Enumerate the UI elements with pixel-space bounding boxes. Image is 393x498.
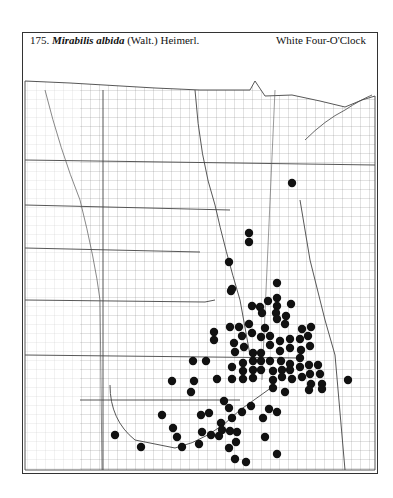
occurrence-dot <box>239 359 247 367</box>
occurrence-dot <box>269 384 277 392</box>
occurrence-dot <box>230 339 238 347</box>
occurrence-dot <box>296 335 304 343</box>
occurrence-dot <box>277 357 285 365</box>
occurrence-dot <box>231 455 239 463</box>
occurrence-dot <box>249 357 257 365</box>
occurrence-dot <box>238 332 246 340</box>
occurrence-dot <box>269 367 277 375</box>
occurrence-dot <box>173 433 181 441</box>
occurrence-dot <box>210 336 218 344</box>
occurrence-dot <box>210 328 218 336</box>
occurrence-dot <box>305 361 313 369</box>
occurrence-dot <box>278 373 286 381</box>
occurrence-dot <box>231 348 239 356</box>
occurrence-dot <box>264 297 272 305</box>
occurrence-dot <box>190 377 198 385</box>
occurrence-dot <box>297 346 305 354</box>
occurrence-dot <box>137 443 145 451</box>
occurrence-dot <box>225 444 233 452</box>
occurrence-dot <box>111 431 119 439</box>
occurrence-dot <box>249 349 257 357</box>
occurrence-dot <box>273 408 281 416</box>
occurrence-dot <box>228 375 236 383</box>
occurrence-dot <box>286 366 294 374</box>
occurrence-dot <box>248 302 256 310</box>
occurrence-dot <box>225 404 233 412</box>
occurrence-dot <box>296 354 304 362</box>
occurrence-dot <box>298 325 306 333</box>
occurrence-dot <box>273 450 281 458</box>
occurrence-dot <box>281 388 289 396</box>
occurrence-dot <box>245 320 253 328</box>
occurrence-dot <box>266 332 274 340</box>
occurrence-dot <box>273 279 281 287</box>
occurrence-dot <box>288 179 296 187</box>
occurrence-dot <box>257 349 265 357</box>
occurrence-dot <box>296 363 304 371</box>
distribution-map <box>0 0 393 498</box>
occurrence-dot <box>228 363 236 371</box>
occurrence-dot <box>197 411 205 419</box>
occurrence-dot <box>239 375 247 383</box>
occurrence-dot <box>318 385 326 393</box>
occurrence-dot <box>249 374 257 382</box>
occurrence-dot <box>306 370 314 378</box>
occurrence-dot <box>273 294 281 302</box>
occurrence-dot <box>266 341 274 349</box>
occurrence-dot <box>261 433 269 441</box>
occurrence-dot <box>239 367 247 375</box>
occurrence-dot <box>257 366 265 374</box>
occurrence-dot <box>281 320 289 328</box>
occurrence-dot <box>304 332 312 340</box>
occurrence-dot <box>215 432 223 440</box>
occurrence-dot <box>242 458 250 466</box>
occurrence-dot <box>232 438 240 446</box>
occurrence-dot <box>249 366 257 374</box>
occurrence-dot <box>169 424 177 432</box>
occurrence-dot <box>276 347 284 355</box>
occurrence-dot <box>158 411 166 419</box>
occurrence-dot <box>225 258 233 266</box>
occurrence-dot <box>344 376 352 384</box>
occurrence-dot <box>287 300 295 308</box>
occurrence-dot <box>307 323 315 331</box>
occurrence-dot <box>269 376 277 384</box>
occurrence-dot <box>245 238 253 246</box>
occurrence-dot <box>228 414 236 422</box>
occurrence-dot <box>220 397 228 405</box>
occurrence-dot <box>288 375 296 383</box>
occurrence-dot <box>261 324 269 332</box>
occurrence-dot <box>282 312 290 320</box>
occurrence-dot <box>306 342 314 350</box>
occurrence-dot <box>286 335 294 343</box>
occurrence-dot <box>213 375 221 383</box>
occurrence-dot <box>316 370 324 378</box>
occurrence-dot <box>266 357 274 365</box>
occurrence-dot <box>248 329 256 337</box>
occurrence-dot <box>314 361 322 369</box>
occurrence-dot <box>235 323 243 331</box>
occurrence-dot <box>187 388 195 396</box>
occurrence-dot <box>259 414 267 422</box>
occurrence-dot <box>298 373 306 381</box>
occurrence-dot <box>202 357 210 365</box>
occurrence-dot <box>245 229 253 237</box>
occurrence-dot <box>257 333 265 341</box>
occurrence-dot <box>205 409 213 417</box>
occurrence-dot <box>189 357 197 365</box>
occurrence-dot <box>178 443 186 451</box>
occurrence-dot <box>265 405 273 413</box>
occurrence-dot <box>258 309 266 317</box>
occurrence-dot <box>286 344 294 352</box>
occurrence-dot <box>238 408 246 416</box>
occurrence-dot <box>227 287 235 295</box>
occurrence-dot <box>305 386 313 394</box>
occurrence-dot <box>257 357 265 365</box>
occurrence-dot <box>207 431 215 439</box>
occurrence-dot <box>198 428 206 436</box>
occurrence-dot <box>195 440 203 448</box>
occurrence-dot <box>233 428 241 436</box>
occurrence-dot <box>226 323 234 331</box>
occurrence-dot <box>276 337 284 345</box>
occurrence-dot <box>247 402 255 410</box>
